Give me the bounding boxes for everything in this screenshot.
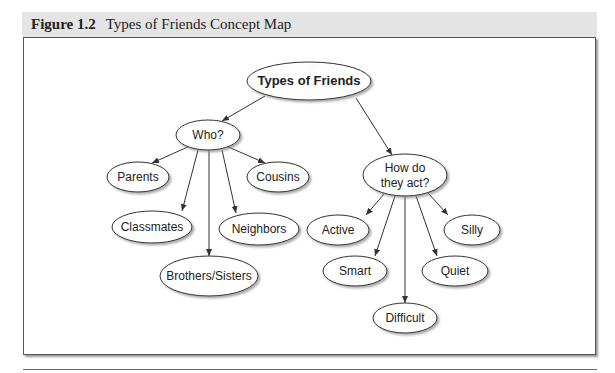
node-cousins: Cousins bbox=[247, 162, 309, 192]
edge-root-to-how bbox=[356, 98, 392, 155]
concept-map: Types of FriendsWho?How dothey act?Paren… bbox=[0, 0, 615, 373]
node-silly: Silly bbox=[444, 215, 500, 245]
node-label: Classmates bbox=[121, 220, 184, 234]
edge-who-to-classmates bbox=[182, 150, 198, 211]
bottom-rule bbox=[23, 369, 597, 370]
node-brothers-sisters: Brothers/Sisters bbox=[160, 256, 258, 296]
node-label: How do bbox=[385, 161, 426, 175]
node-label: Active bbox=[322, 223, 355, 237]
node-smart: Smart bbox=[323, 256, 387, 286]
node-quiet: Quiet bbox=[422, 256, 488, 286]
node-label: Difficult bbox=[385, 311, 425, 325]
edge-how-to-silly bbox=[428, 193, 448, 215]
node-label: Smart bbox=[339, 264, 372, 278]
edge-who-to-parents bbox=[152, 146, 190, 163]
node-label: Cousins bbox=[256, 170, 299, 184]
node-active: Active bbox=[307, 215, 369, 245]
node-label: Parents bbox=[117, 170, 158, 184]
node-neighbors: Neighbors bbox=[219, 213, 299, 245]
node-label: Silly bbox=[461, 223, 483, 237]
edge-how-to-quiet bbox=[416, 196, 437, 256]
node-root: Types of Friends bbox=[247, 62, 371, 100]
edge-how-to-active bbox=[366, 194, 384, 215]
edge-who-to-cousins bbox=[226, 146, 265, 163]
node-classmates: Classmates bbox=[112, 211, 192, 243]
node-label: Who? bbox=[192, 128, 224, 142]
node-label: Quiet bbox=[441, 264, 470, 278]
node-label: Brothers/Sisters bbox=[166, 269, 251, 283]
edge-how-to-smart bbox=[375, 196, 395, 256]
edge-root-to-who bbox=[222, 96, 265, 121]
node-who: Who? bbox=[176, 120, 240, 150]
node-difficult: Difficult bbox=[373, 303, 437, 333]
node-label: they act? bbox=[381, 176, 430, 190]
node-label: Neighbors bbox=[232, 222, 287, 236]
node-how: How dothey act? bbox=[363, 154, 447, 196]
edge-who-to-neighbors bbox=[222, 150, 236, 213]
node-parents: Parents bbox=[107, 162, 169, 192]
nodes-layer: Types of FriendsWho?How dothey act?Paren… bbox=[107, 62, 500, 333]
node-label: Types of Friends bbox=[257, 73, 360, 88]
